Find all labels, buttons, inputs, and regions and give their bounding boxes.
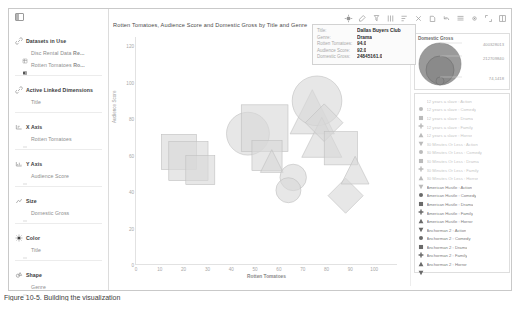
legend-entry-label: American Hustle : Family — [427, 211, 474, 216]
legend-entry[interactable]: American Hustle : Drama — [418, 200, 506, 209]
expand-icon[interactable] — [484, 14, 493, 23]
legend-mark-triangle-down-icon — [418, 176, 424, 182]
tooltip-row: Domestic Gross:24845161.0 — [317, 54, 411, 59]
legend-entry[interactable]: 12 years a slave : Action — [418, 97, 506, 106]
legend-entry[interactable]: 30 Minutes Or Less : Comedy — [418, 149, 506, 158]
shelf-field-pill[interactable]: Genre — [15, 281, 108, 293]
shelf-header-y-axis[interactable]: Y Axis — [15, 157, 108, 170]
shelf-header-size[interactable]: Size — [15, 194, 108, 207]
size-legend-value: 400328013 — [483, 42, 504, 47]
figure-caption: Figure 10-5. Building the visualization — [4, 294, 516, 301]
legend-entry[interactable]: 12 years a slave : Drama — [418, 114, 506, 123]
shelf-field-pill[interactable]: Rotten Tomatoes — [15, 133, 108, 145]
legend-entry-label: American Hustle : Action — [427, 185, 473, 190]
legend-entry[interactable]: Anchorman 2 : Drama — [418, 243, 506, 252]
y-tick-label: 60 — [129, 153, 134, 158]
legend-entry[interactable]: Anchorman 2 : Family — [418, 252, 506, 261]
x-tick-label: 40 — [229, 267, 234, 272]
x-tick-label: 100 — [370, 267, 378, 272]
color-icon — [15, 234, 23, 242]
legend-entry[interactable]: Anchorman 2 : Comedy — [418, 235, 506, 244]
shelf-field-label: Audience Score — [31, 173, 69, 179]
shelf-header-x-axis[interactable]: X Axis — [15, 120, 108, 133]
fullscreen-icon[interactable] — [498, 14, 507, 23]
annotate-icon[interactable] — [428, 14, 437, 23]
legend-entry[interactable]: Anchorman 2 : Action — [418, 226, 506, 235]
shelf-divider — [15, 223, 102, 224]
shelf-field-pill[interactable]: Title — [15, 96, 108, 108]
chart-title: Rotten Tomatoes, Audience Score and Dome… — [113, 22, 307, 28]
link-icon — [15, 86, 23, 94]
size-legend: Domestic Gross 400328013 212709840 74 — [414, 33, 510, 90]
legend-entry-label: Anchorman 2 : Action — [427, 228, 467, 233]
legend-entry[interactable]: 12 years a slave : Horror — [418, 131, 506, 140]
x-tick-label: 20 — [181, 267, 186, 272]
legend-mark-triangle-icon — [418, 210, 424, 216]
y-tick-label: 100 — [126, 80, 134, 85]
shelf-header-datasets[interactable]: Datasets in Use — [15, 34, 108, 47]
legend-entry-list: 12 years a slave : Action12 years a slav… — [418, 97, 506, 269]
size-legend-title: Domestic Gross — [418, 36, 506, 41]
shelf-field-pill[interactable]: Audience Score — [15, 170, 108, 182]
field-icon — [22, 173, 28, 179]
shelf-header-active-linked-dimensions[interactable]: Active Linked Dimensions — [15, 83, 108, 96]
legend-column: Domestic Gross 400328013 212709840 74 — [410, 33, 510, 286]
shelf-field-pill[interactable]: Title — [15, 244, 108, 256]
shelf-header-label: Active Linked Dimensions — [26, 87, 93, 93]
shelf-header-color[interactable]: Color — [15, 231, 108, 244]
tooltip-value: 92.0 — [357, 48, 366, 53]
app-window: Datasets in UseDisc Rental Data Re...Rot… — [8, 8, 512, 291]
legend-entry[interactable]: 30 Minutes Or Less : Drama — [418, 157, 506, 166]
shelf-header-label: Color — [26, 235, 40, 241]
legend-entry[interactable]: American Hustle : Comedy — [418, 192, 506, 201]
shelf-field-pill[interactable]: Domestic Gross — [15, 207, 108, 219]
shelf-x-axis: X AxisRotten Tomatoes — [9, 120, 108, 145]
columns-icon[interactable] — [386, 14, 395, 23]
settings-icon[interactable] — [470, 14, 479, 23]
pointer-tool-icon[interactable] — [344, 14, 353, 23]
plot-area[interactable]: 020406080100120 0102030405060708090100 R… — [135, 37, 397, 265]
tooltip-key: Rotten Tomatoes: — [317, 41, 357, 46]
scatter-mark[interactable] — [186, 156, 215, 185]
plot-wrapper: Audience Score 020406080100120 010203040… — [113, 33, 413, 283]
shelf-divider — [15, 186, 102, 187]
shelf-field-label: Title — [31, 99, 41, 105]
undo-icon[interactable] — [442, 14, 451, 23]
shelf-field-pill[interactable]: Disc Rental Data Re... — [15, 47, 108, 59]
tooltip-value: Drama — [357, 35, 372, 40]
scatter-marks — [136, 37, 398, 265]
legend-entry-label: 12 years a slave : Horror — [427, 133, 473, 138]
legend-entry[interactable]: 30 Minutes Or Less : Family — [418, 166, 506, 175]
shelf-field-pill[interactable]: Rotten Tomatoes Ro... — [15, 59, 108, 71]
crosshair-icon[interactable] — [414, 14, 423, 23]
layers-icon[interactable] — [456, 14, 465, 23]
legend-entry[interactable]: American Hustle : Action — [418, 183, 506, 192]
field-icon — [22, 136, 28, 142]
legend-entry[interactable]: 12 years a slave : Family — [418, 123, 506, 132]
point-tooltip: Title:Dallas Buyers ClubGenre:DramaRotte… — [312, 24, 416, 65]
x-axis-title: Rotten Tomatoes — [247, 274, 286, 279]
legend-entry[interactable]: Anchorman 2 : Horror — [418, 260, 506, 269]
shelf-header-shape[interactable]: Shape — [15, 268, 108, 281]
tooltip-value: 24845161.0 — [357, 54, 382, 59]
legend-entry[interactable]: 12 years a slave : Comedy — [418, 106, 506, 115]
field-icon — [22, 284, 28, 290]
legend-entry[interactable]: 30 Minutes Or Less : Action — [418, 140, 506, 149]
shelf-y-axis: Y AxisAudience Score — [9, 157, 108, 182]
legend-mark-triangle-down-icon — [418, 219, 424, 225]
y-tick-label: 40 — [129, 190, 134, 195]
scatter-mark[interactable] — [324, 132, 357, 165]
tooltip-value: 94.0 — [357, 41, 366, 46]
field-icon — [22, 247, 28, 253]
legend-entry[interactable]: American Hustle : Family — [418, 209, 506, 218]
tooltip-row: Rotten Tomatoes:94.0 — [317, 41, 411, 46]
edit-tool-icon[interactable] — [358, 14, 367, 23]
scatter-mark[interactable] — [276, 178, 301, 203]
legend-entry[interactable]: American Hustle : Horror — [418, 217, 506, 226]
sort-ascending-icon[interactable] — [400, 14, 409, 23]
shelf-shape: ShapeGenre — [9, 268, 108, 293]
filter-icon[interactable] — [372, 14, 381, 23]
legend-entry[interactable]: 30 Minutes Or Less : Horror — [418, 174, 506, 183]
panel-collapse-icon[interactable] — [15, 13, 24, 21]
shelf-divider — [15, 75, 102, 76]
